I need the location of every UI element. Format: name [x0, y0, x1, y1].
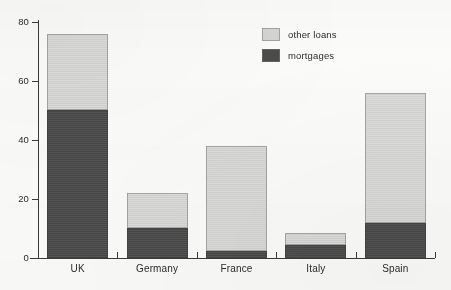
- bar-segment-other-loans[interactable]: [365, 93, 426, 223]
- stacked-bar-chart: 806040200 UKGermanyFranceItalySpain othe…: [0, 0, 451, 290]
- x-tick-mark: [435, 252, 436, 258]
- bar-segment-mortgages[interactable]: [127, 228, 188, 258]
- y-tick-mark: [32, 140, 38, 141]
- x-axis-line: [30, 258, 435, 259]
- bar-segment-other-loans[interactable]: [47, 34, 108, 111]
- y-tick-label-text: 60: [3, 75, 29, 86]
- y-tick-label-text: 40: [3, 134, 29, 145]
- y-tick-label: 60: [0, 75, 29, 87]
- y-tick-label: 40: [0, 134, 29, 146]
- y-axis-line: [38, 20, 39, 259]
- bar-segment-other-loans[interactable]: [285, 233, 346, 245]
- x-axis-label-germany: Germany: [112, 263, 202, 274]
- y-tick-label: 80: [0, 16, 29, 28]
- y-tick-label-text: 0: [3, 252, 29, 263]
- x-tick-mark: [38, 252, 39, 258]
- x-tick-mark: [197, 252, 198, 258]
- bar-segment-other-loans[interactable]: [127, 193, 188, 228]
- bar-germany[interactable]: [127, 193, 188, 258]
- bar-uk[interactable]: [47, 34, 108, 258]
- legend-label: mortgages: [288, 50, 334, 61]
- chart-legend: other loansmortgages: [262, 26, 337, 68]
- legend-item-other-loans[interactable]: other loans: [262, 26, 337, 43]
- bar-segment-mortgages[interactable]: [206, 251, 267, 258]
- x-axis-label-italy: Italy: [271, 263, 361, 274]
- legend-label: other loans: [288, 29, 337, 40]
- bar-segment-mortgages[interactable]: [47, 110, 108, 258]
- x-tick-mark: [276, 252, 277, 258]
- legend-item-mortgages[interactable]: mortgages: [262, 47, 337, 64]
- x-axis-label-france: France: [192, 263, 282, 274]
- bar-segment-other-loans[interactable]: [206, 146, 267, 251]
- x-tick-mark: [356, 252, 357, 258]
- y-tick-label-text: 20: [3, 193, 29, 204]
- bar-segment-mortgages[interactable]: [285, 245, 346, 258]
- y-tick-mark: [32, 199, 38, 200]
- x-axis-label-spain: Spain: [350, 263, 440, 274]
- bar-spain[interactable]: [365, 93, 426, 258]
- y-tick-mark: [32, 22, 38, 23]
- y-tick-label: 0: [0, 252, 29, 264]
- y-tick-mark: [32, 81, 38, 82]
- y-tick-label-text: 80: [3, 16, 29, 27]
- x-tick-mark: [117, 252, 118, 258]
- y-tick-label: 20: [0, 193, 29, 205]
- legend-swatch-icon: [262, 28, 280, 41]
- x-axis-label-uk: UK: [33, 263, 123, 274]
- bar-segment-mortgages[interactable]: [365, 223, 426, 258]
- bar-france[interactable]: [206, 146, 267, 258]
- bar-italy[interactable]: [285, 233, 346, 258]
- legend-swatch-icon: [262, 49, 280, 62]
